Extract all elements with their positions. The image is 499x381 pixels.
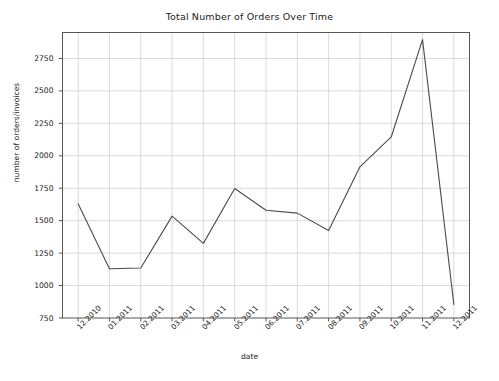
grid-lines <box>63 33 470 319</box>
y-tick-label: 1000 <box>14 281 54 290</box>
tick-marks <box>59 58 454 321</box>
chart-figure: Total Number of Orders Over Time number … <box>0 0 499 381</box>
y-tick-label: 2750 <box>14 54 54 63</box>
y-tick-label: 1250 <box>14 249 54 258</box>
y-tick-label: 1500 <box>14 216 54 225</box>
y-tick-label: 2250 <box>14 119 54 128</box>
y-tick-label: 2500 <box>14 86 54 95</box>
y-tick-label: 750 <box>14 314 54 323</box>
y-tick-label: 2000 <box>14 151 54 160</box>
y-tick-label: 1750 <box>14 184 54 193</box>
